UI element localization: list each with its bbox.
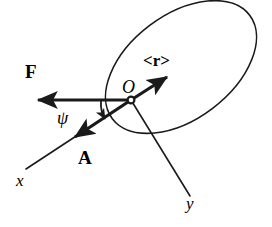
mean-radius-vector-label: <r> — [143, 52, 170, 69]
y-axis-label: y — [186, 195, 194, 212]
x-axis-label: x — [16, 172, 24, 189]
force-vector-label: F — [25, 62, 37, 81]
y-axis-line — [131, 100, 190, 196]
area-vector-arrow — [75, 100, 131, 137]
area-vector-label: A — [78, 148, 92, 167]
psi-angle-arc — [101, 101, 105, 119]
origin-point — [128, 97, 135, 104]
psi-angle-label: ψ — [57, 109, 68, 127]
orbit-ellipse — [81, 0, 272, 160]
vector-diagram-figure: F <r> A O ψ x y — [0, 0, 272, 227]
origin-label: O — [122, 78, 135, 96]
mean-radius-vector-arrow — [131, 77, 167, 100]
diagram-canvas — [0, 0, 272, 227]
